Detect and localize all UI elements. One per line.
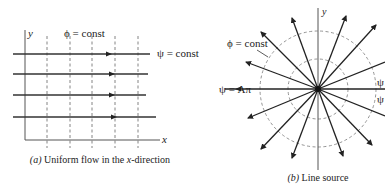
stream-label-right-top: ψ [377, 76, 384, 88]
y-axis-label: y [27, 27, 33, 39]
potential-leader-line [257, 50, 268, 57]
streamlines [13, 52, 156, 120]
source-point [315, 86, 321, 92]
x-axis-label: x [161, 133, 167, 145]
radial-ray [292, 18, 318, 89]
radial-ray [318, 25, 376, 89]
potential-label: ϕ = const [64, 27, 105, 39]
caption-b: (b) Line source [287, 172, 349, 184]
radial-ray [292, 89, 318, 158]
arrowhead-icon [106, 52, 112, 57]
radial-ray [246, 62, 318, 89]
potential-label: ϕ = const [227, 37, 268, 49]
radial-ray [318, 89, 372, 145]
figure-canvas: y x ϕ = const ψ = const (a) Uniform flow… [0, 0, 385, 187]
stream-label-right-bottom: ψ [377, 93, 384, 105]
equipotential-lines [47, 36, 138, 148]
stream-label: ψ = const [157, 47, 199, 59]
arrowhead-icon [109, 72, 115, 77]
radial-ray [248, 89, 318, 118]
radial-ray [318, 62, 385, 89]
radial-ray [318, 16, 346, 89]
arrowhead-icon [109, 93, 115, 98]
radial-ray [318, 89, 385, 116]
caption-a: (a) Uniform flow in the x-direction [30, 154, 170, 166]
y-axis-label: y [321, 6, 327, 17]
panel-uniform-flow: y x ϕ = const ψ = const (a) Uniform flow… [13, 27, 199, 166]
panel-line-source: y ϕ = const ψ = Aπ ψ ψ (b) Line source [219, 6, 385, 184]
stream-label-left: ψ = Aπ [219, 83, 252, 95]
arrowhead-icon [111, 115, 117, 120]
